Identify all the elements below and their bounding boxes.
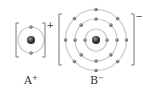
electron — [73, 17, 77, 21]
ion-a-label: A+ — [24, 75, 38, 86]
electron — [94, 59, 98, 63]
ion-b-label: B− — [90, 75, 104, 86]
charge-sign: + — [47, 20, 55, 30]
ion-b-symbol: B — [90, 74, 98, 87]
nucleus — [27, 36, 35, 44]
electron — [79, 23, 83, 27]
left-bracket — [59, 14, 62, 65]
electron — [109, 53, 113, 57]
electron — [29, 25, 33, 29]
electron — [83, 38, 87, 42]
ion-a-atom: + — [16, 20, 54, 57]
ion-a-charge: + — [32, 74, 38, 82]
electron — [94, 17, 98, 21]
electron — [125, 38, 129, 42]
electron — [105, 38, 109, 42]
electron — [115, 38, 119, 42]
electron — [64, 38, 68, 42]
electron — [73, 38, 77, 42]
electron — [79, 53, 83, 57]
electron — [116, 17, 120, 21]
ion-b-atom: − — [59, 8, 142, 73]
charge-sign: − — [136, 11, 143, 21]
electron — [109, 23, 113, 27]
electron — [94, 8, 98, 12]
ion-b-charge: − — [98, 74, 104, 82]
electron — [94, 69, 98, 73]
right-bracket — [131, 14, 134, 65]
ion-diagram: + − — [0, 0, 142, 93]
electron — [116, 60, 120, 64]
electron — [29, 51, 33, 55]
nucleus — [92, 36, 100, 44]
ion-a-symbol: A — [24, 74, 32, 87]
electron — [73, 60, 77, 64]
